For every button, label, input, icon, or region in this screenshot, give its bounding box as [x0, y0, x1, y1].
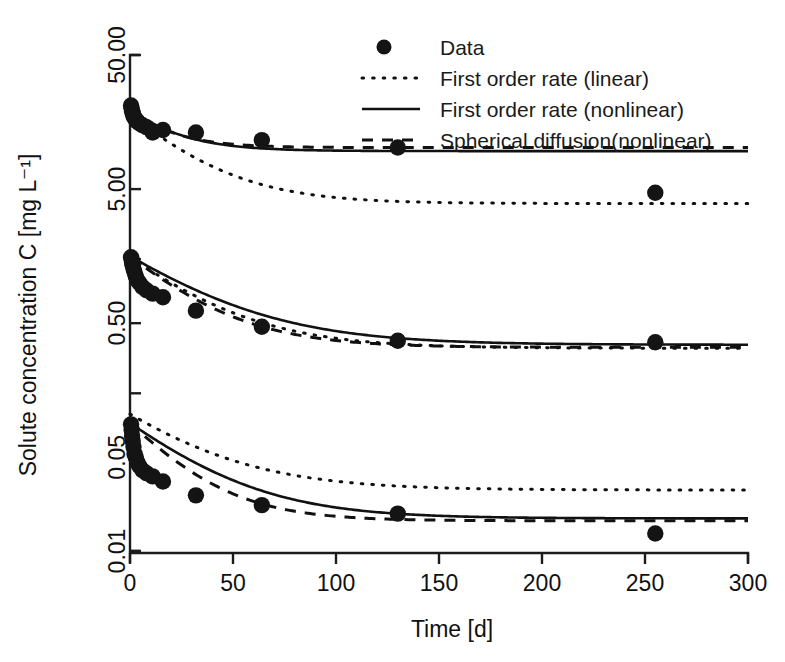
- data-point: [647, 184, 663, 200]
- y-tick-label: 0.50: [104, 301, 130, 346]
- y-tick-label: 0.01: [104, 529, 130, 574]
- y-tick-label: 50.00: [104, 26, 130, 84]
- data-point: [254, 319, 270, 335]
- x-tick-label: 100: [317, 570, 355, 596]
- data-point: [188, 124, 204, 140]
- legend-label: Data: [440, 36, 485, 59]
- data-point: [155, 473, 171, 489]
- x-tick-label: 50: [220, 570, 246, 596]
- x-tick-label: 250: [626, 570, 664, 596]
- data-point: [155, 289, 171, 305]
- data-point: [647, 334, 663, 350]
- data-point: [390, 333, 406, 349]
- x-tick-label: 150: [420, 570, 458, 596]
- x-axis-title: Time [d]: [411, 616, 493, 642]
- legend-label: Spherical diffusion(nonlinear): [440, 129, 712, 152]
- data-point: [390, 139, 406, 155]
- legend-label: First order rate (nonlinear): [440, 98, 684, 121]
- y-tick-label: 5.00: [104, 167, 130, 212]
- x-tick-label: 0: [124, 570, 137, 596]
- y-axis-title: Solute concentration C [mg L⁻¹]: [15, 154, 41, 477]
- x-tick-label: 200: [523, 570, 561, 596]
- data-point: [155, 122, 171, 138]
- legend-label: First order rate (linear): [440, 67, 649, 90]
- legend-marker-icon: [377, 40, 392, 55]
- x-tick-label: 300: [729, 570, 767, 596]
- data-point: [188, 487, 204, 503]
- figure-container: 50.005.000.500.050.01 050100150200250300…: [0, 0, 785, 662]
- chart-canvas: 50.005.000.500.050.01 050100150200250300…: [0, 0, 785, 662]
- data-point: [254, 497, 270, 513]
- data-point: [188, 302, 204, 318]
- data-point: [647, 525, 663, 541]
- data-point: [390, 505, 406, 521]
- data-point: [254, 132, 270, 148]
